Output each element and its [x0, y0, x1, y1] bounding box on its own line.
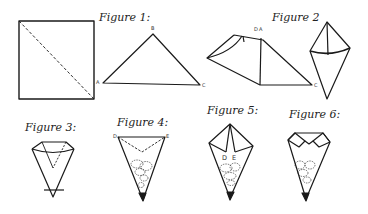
figure-5-point-e: E — [232, 154, 236, 162]
diagram-drawing — [0, 0, 368, 214]
figure-4-point-e: E — [166, 133, 169, 139]
figure-4-point-d: D — [113, 133, 117, 139]
figure-6-cone — [288, 133, 330, 201]
figure-2-folded-shape — [207, 35, 312, 85]
figure-5-point-d: D — [222, 154, 227, 162]
figure-1-square — [19, 21, 94, 99]
figure-2-point-c: C — [314, 82, 318, 88]
figure-1-point-b: B — [151, 25, 154, 31]
figure-2-title: Figure 2 — [272, 11, 320, 24]
figure-4-cone — [118, 137, 165, 201]
figure-1-point-c: C — [202, 82, 206, 88]
figure-6-title: Figure 6: — [289, 108, 340, 121]
figure-2-point-d: D — [254, 26, 258, 32]
figure-5-cone — [209, 124, 253, 200]
figure-5-title: Figure 5: — [207, 104, 258, 117]
figure-3-cone — [32, 142, 74, 197]
figure-2-point-a: A — [259, 26, 262, 32]
figure-1-title: Figure 1: — [99, 11, 150, 24]
figure-3-title: Figure 3: — [25, 121, 76, 134]
figure-1-point-a: A — [96, 79, 99, 85]
figure-1-triangle — [103, 34, 200, 85]
figure-4-title: Figure 4: — [117, 116, 168, 129]
diagram-canvas: Figure 1: Figure 2 Figure 3: Figure 4: F… — [0, 0, 368, 214]
